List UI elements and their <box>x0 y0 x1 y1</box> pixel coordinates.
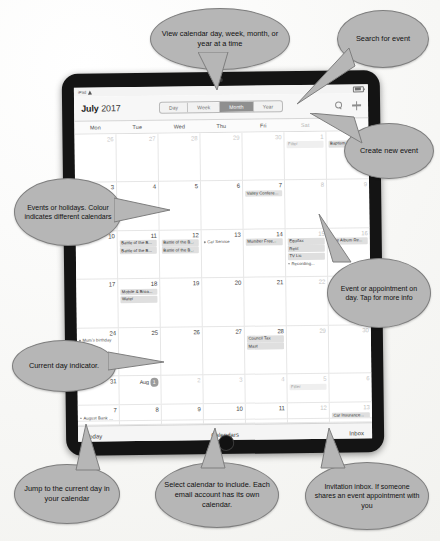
title-year: 2017 <box>101 103 121 113</box>
view-mode-week[interactable]: Week <box>188 102 220 112</box>
annotation-view-modes: View calendar day, week, month, or year … <box>150 8 290 70</box>
day-cell[interactable]: 11Battle of the B...Battle of the B... <box>118 230 161 279</box>
calendar-event[interactable]: Water <box>120 296 157 303</box>
day-cell[interactable]: 20 <box>202 278 245 327</box>
day-cell[interactable]: 12 <box>288 403 330 420</box>
day-cell[interactable]: 11 <box>246 403 288 420</box>
month-prefix: Aug <box>140 379 149 385</box>
day-number: 18 <box>120 281 157 287</box>
annotation-appointment: Event or appointment on day. Tap for mor… <box>327 258 431 328</box>
weekday-fri: Fri <box>242 122 284 129</box>
view-mode-segmented-control[interactable]: Day Week Month Year <box>159 100 283 114</box>
day-number: 6 <box>203 183 240 189</box>
carrier-label: iPad <box>78 90 86 95</box>
day-number: 21 <box>246 279 283 285</box>
day-number: 5 <box>289 376 326 382</box>
annotation-inbox-bubble: Invitation inbox. If someone shares an e… <box>305 462 429 530</box>
annotation-events-bubble: Events or holidays. Colour indicates dif… <box>14 178 122 246</box>
calendar-event[interactable]: Mumber Free... <box>246 238 283 245</box>
annotation-today-button-tail <box>70 424 120 474</box>
day-cell[interactable]: 29 <box>200 132 243 181</box>
annotation-view-modes-tail <box>198 52 238 92</box>
annotation-current-day: Current day indicator. <box>12 340 116 392</box>
calendar-event[interactable]: Battle of the B... <box>162 247 199 254</box>
annotation-events-tail <box>114 196 174 232</box>
calendar-event[interactable]: Car Service <box>204 239 241 246</box>
day-cell[interactable]: 29 <box>287 325 330 374</box>
view-mode-month[interactable]: Month <box>220 102 254 112</box>
day-number: 30 <box>244 134 281 140</box>
day-number: 12 <box>290 405 327 411</box>
day-cell[interactable]: 10 <box>204 404 246 421</box>
calendar-event[interactable]: Battle of the B... <box>120 240 157 247</box>
wifi-icon <box>88 90 93 94</box>
day-cell[interactable]: 27 <box>203 326 246 375</box>
day-number: 8 <box>122 407 159 413</box>
partial-week-row[interactable]: 7August Bank H...Summer Bank...891011121… <box>78 401 372 422</box>
day-cell[interactable]: 28Council TaxMast <box>245 326 288 375</box>
day-cell[interactable]: 19 <box>160 278 203 327</box>
annotation-appointment-tail <box>303 214 353 266</box>
day-number: 29 <box>202 134 239 140</box>
day-number: 19 <box>162 280 199 286</box>
day-number: 26 <box>163 329 200 335</box>
calendar-event[interactable]: Valley Conference 2017 <box>245 190 282 197</box>
day-number: 27 <box>118 135 155 141</box>
day-number: 7 <box>80 407 117 413</box>
day-number: 13 <box>204 231 241 237</box>
annotation-search-tail <box>297 48 357 108</box>
day-cell[interactable]: 6 <box>201 181 244 230</box>
day-cell[interactable]: 13Car Insurance... <box>330 402 372 419</box>
day-cell[interactable]: 7August Bank H...Summer Bank... <box>78 405 120 422</box>
day-number: 7 <box>245 182 282 188</box>
day-number: 28 <box>247 328 284 334</box>
day-cell[interactable]: 13Car Service <box>202 229 245 278</box>
calendar-event[interactable]: Car Insurance... <box>332 412 370 419</box>
day-number: 29 <box>289 327 326 333</box>
calendar-event[interactable]: Mobile & Broa... <box>120 288 157 295</box>
page-title: July 2017 <box>81 103 121 113</box>
annotation-create-event: Create new event <box>344 123 434 179</box>
day-cell[interactable]: 26 <box>74 134 117 183</box>
day-cell[interactable]: 27 <box>116 133 159 182</box>
calendar-event[interactable]: Mast <box>247 343 284 350</box>
day-cell[interactable]: 8 <box>120 405 162 422</box>
annotation-current-day-bubble: Current day indicator. <box>12 340 116 392</box>
day-cell[interactable]: 28 <box>158 133 201 182</box>
calendar-event[interactable]: Council Tax <box>247 335 284 342</box>
day-cell[interactable]: 30 <box>242 132 285 181</box>
day-cell[interactable]: 14Mumber Free... <box>244 229 287 278</box>
calendar-event[interactable]: Filter <box>289 383 326 390</box>
day-number: 13 <box>332 404 370 410</box>
annotation-inbox: Invitation inbox. If someone shares an e… <box>305 462 429 530</box>
day-number: 17 <box>78 281 115 287</box>
day-number: 3 <box>205 377 242 383</box>
calendar-event[interactable]: Battle of the B... <box>162 239 199 246</box>
day-cell[interactable]: 22 <box>286 277 329 326</box>
day-number: 28 <box>160 135 197 141</box>
annotation-today-button: Jump to the current day in your calendar <box>14 464 120 524</box>
view-mode-year[interactable]: Year <box>254 101 283 111</box>
day-number: 24 <box>79 330 116 336</box>
annotation-search: Search for event <box>337 10 429 68</box>
annotation-events: Events or holidays. Colour indicates dif… <box>14 178 122 246</box>
view-mode-day[interactable]: Day <box>160 102 188 112</box>
calendar-event[interactable]: August Bank H... <box>80 415 117 422</box>
day-cell[interactable]: 30 <box>329 325 372 374</box>
day-cell[interactable]: 18Mobile & Broa...Water <box>118 279 161 328</box>
weekday-mon: Mon <box>74 124 116 131</box>
day-cell[interactable]: 12Battle of the B...Battle of the B... <box>160 230 203 279</box>
day-number: Aug1 <box>121 378 158 387</box>
day-cell[interactable]: 7Valley Conference 2017 <box>243 180 286 229</box>
day-cell[interactable]: 17 <box>76 279 119 328</box>
day-number: 20 <box>204 280 241 286</box>
today-indicator: 1 <box>150 378 159 387</box>
day-cell[interactable]: 9 <box>162 404 204 421</box>
day-cell[interactable]: 21 <box>244 277 287 326</box>
day-number: 5 <box>161 183 198 189</box>
day-number: 22 <box>288 279 325 285</box>
day-number: 26 <box>76 136 113 142</box>
calendar-event[interactable]: Battle of the B... <box>120 247 157 254</box>
annotation-current-day-tail <box>108 350 168 378</box>
day-number: 10 <box>206 406 243 412</box>
